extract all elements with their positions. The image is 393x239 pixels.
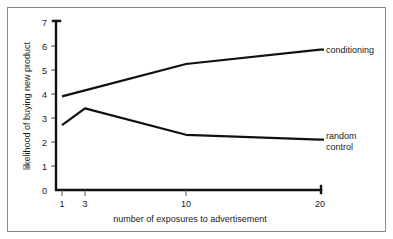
series-line-random-control: [62, 108, 320, 139]
y-tick-label-1: 1: [42, 162, 47, 172]
series-label-random: random: [326, 131, 357, 141]
y-tick-label-4: 4: [42, 90, 47, 100]
y-tick-label-6: 6: [42, 42, 47, 52]
axis-spines: [56, 21, 321, 190]
figure-root: likelihood of buying new product 0 1 2 3…: [0, 0, 393, 239]
series-line-conditioning: [62, 50, 320, 97]
series-label-control: control: [326, 142, 353, 152]
y-tick-label-2: 2: [42, 138, 47, 148]
y-tick-label-0: 0: [42, 186, 47, 196]
y-tick-label-3: 3: [42, 114, 47, 124]
series-label-conditioning: conditioning: [326, 45, 374, 55]
y-tick-label-5: 5: [42, 66, 47, 76]
line-chart: likelihood of buying new product 0 1 2 3…: [0, 0, 393, 239]
y-axis-title: likelihood of buying new product: [22, 41, 32, 170]
x-tick-label-10: 10: [181, 199, 191, 209]
y-tick-label-7: 7: [42, 18, 47, 28]
x-axis-title: number of exposures to advertisement: [113, 214, 267, 224]
x-tick-label-20: 20: [315, 199, 325, 209]
x-tick-label-3: 3: [82, 199, 87, 209]
x-tick-label-1: 1: [59, 199, 64, 209]
